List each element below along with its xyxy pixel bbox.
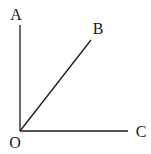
angle-diagram: A B C O bbox=[0, 0, 151, 154]
label-b: B bbox=[93, 20, 104, 37]
label-c: C bbox=[136, 123, 147, 140]
ray-ob bbox=[20, 40, 91, 131]
label-a: A bbox=[10, 6, 22, 23]
label-o: O bbox=[9, 134, 21, 151]
